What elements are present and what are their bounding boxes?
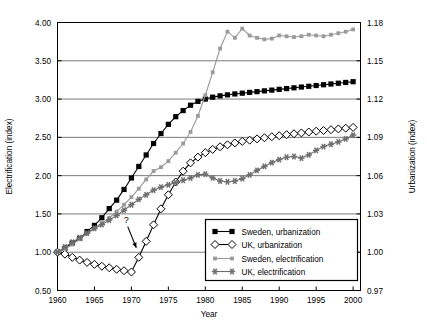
legend-item-label: Sweden, urbanization (242, 228, 321, 237)
annotation-question-mark: ? (124, 215, 129, 225)
y-tick-label-right: 1.06 (367, 172, 383, 181)
star-core (352, 134, 354, 136)
x-tick-label: 1980 (196, 296, 215, 305)
y-tick-label-left: 3.50 (35, 57, 51, 66)
marker-square-filled (188, 103, 193, 108)
x-tick-label: 1965 (85, 296, 104, 305)
star-core (226, 181, 228, 183)
star-core (175, 181, 177, 183)
star-core (152, 189, 154, 191)
marker-square-filled (121, 187, 126, 192)
star-core (241, 178, 243, 180)
marker-square-small (248, 34, 252, 38)
x-tick-label: 1990 (270, 296, 289, 305)
legend-item-label: UK, electrification (242, 268, 306, 277)
star-core (271, 162, 273, 164)
star-core (293, 155, 295, 157)
star-core (234, 180, 236, 182)
marker-square-small (159, 165, 163, 169)
star-core (219, 180, 221, 182)
marker-square-small (213, 257, 217, 261)
marker-square-filled (284, 86, 289, 91)
marker-square-small (144, 178, 148, 182)
legend-item-label: Sweden, electrification (242, 255, 324, 264)
marker-square-filled (247, 90, 252, 95)
star-core (189, 177, 191, 179)
y-tick-label-right: 1.00 (367, 248, 383, 257)
marker-square-filled (336, 81, 341, 86)
star-core (231, 270, 233, 272)
star-core (130, 204, 132, 206)
star-core (337, 141, 339, 143)
marker-square-filled (114, 198, 119, 203)
star-core (56, 251, 58, 253)
y-tick-label-right: 1.09 (367, 133, 383, 142)
y-tick-label-left: 1.00 (35, 248, 51, 257)
marker-square-filled (314, 83, 319, 88)
marker-square-filled (321, 82, 326, 87)
star-core (182, 179, 184, 181)
star-core (167, 184, 169, 186)
marker-square-small (240, 27, 244, 31)
marker-square-filled (129, 175, 134, 180)
marker-square-filled (232, 91, 237, 96)
star-core (330, 143, 332, 145)
star-core (212, 177, 214, 179)
x-tick-label: 2000 (344, 296, 363, 305)
marker-square-filled (181, 108, 186, 113)
star-core (285, 156, 287, 158)
chart-background (0, 0, 427, 332)
marker-square-filled (136, 164, 141, 169)
y-axis-title-right: Urbanization (index) (408, 120, 417, 194)
marker-square-filled (212, 229, 217, 234)
star-core (345, 138, 347, 140)
y-tick-label-left: 4.00 (35, 19, 51, 28)
marker-square-small (344, 30, 348, 34)
star-core (278, 158, 280, 160)
y-tick-label-left: 1.50 (35, 210, 51, 219)
marker-square-filled (306, 84, 311, 89)
marker-square-filled (229, 229, 234, 234)
x-axis-title: Year (201, 310, 218, 319)
star-core (108, 219, 110, 221)
y-tick-label-right: 1.03 (367, 210, 383, 219)
x-tick-label: 1985 (233, 296, 252, 305)
marker-square-small (230, 257, 234, 261)
y-tick-label-left: 3.00 (35, 95, 51, 104)
marker-square-small (211, 70, 215, 74)
star-core (308, 154, 310, 156)
star-core (79, 237, 81, 239)
marker-square-small (292, 35, 296, 39)
marker-square-filled (225, 92, 230, 97)
marker-square-filled (99, 215, 104, 220)
y-axis-title-left: Electrification (index) (5, 118, 14, 194)
marker-square-filled (173, 114, 178, 119)
marker-square-small (270, 37, 274, 41)
marker-square-small (174, 151, 178, 155)
marker-square-small (336, 31, 340, 35)
marker-square-small (203, 93, 207, 97)
star-core (64, 246, 66, 248)
marker-square-filled (277, 87, 282, 92)
star-core (315, 149, 317, 151)
star-core (86, 232, 88, 234)
star-core (197, 174, 199, 176)
star-core (256, 169, 258, 171)
marker-square-filled (158, 131, 163, 136)
star-core (214, 270, 216, 272)
marker-square-filled (151, 141, 156, 146)
marker-square-small (285, 34, 289, 38)
marker-square-small (263, 37, 267, 41)
y-tick-label-right: 1.15 (367, 57, 383, 66)
marker-square-small (196, 114, 200, 118)
marker-square-filled (328, 81, 333, 86)
marker-square-filled (144, 152, 149, 157)
marker-square-filled (269, 88, 274, 93)
star-core (263, 165, 265, 167)
marker-square-filled (217, 93, 222, 98)
marker-square-filled (351, 79, 356, 84)
marker-square-small (130, 195, 134, 199)
star-core (300, 157, 302, 159)
star-core (145, 194, 147, 196)
y-tick-label-right: 0.97 (367, 287, 383, 296)
